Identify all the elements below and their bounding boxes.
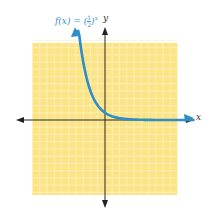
x-axis-left-arrow-icon [16,117,24,123]
y-axis-down-arrow-icon [102,200,108,208]
chart-plot [0,0,210,215]
function-label-exponent: x [95,14,98,21]
y-axis-up-arrow-icon [102,27,108,35]
x-axis-label: x [196,112,201,122]
y-axis-label: y [103,13,108,23]
function-label: f(x) = (12)x [55,14,98,28]
function-label-lhs: f(x) = ( [55,16,87,26]
